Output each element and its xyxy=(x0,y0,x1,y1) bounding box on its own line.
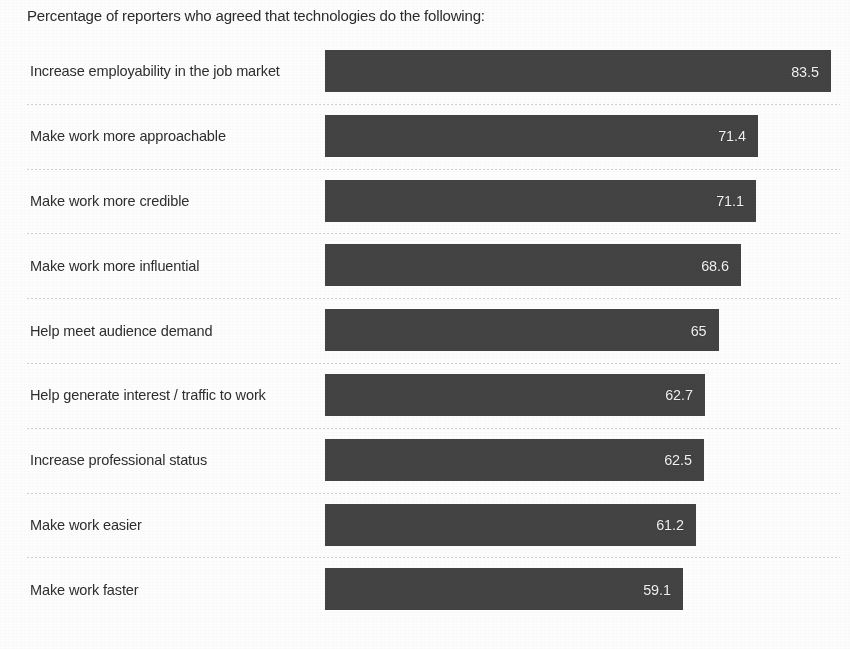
category-label: Increase employability in the job market xyxy=(30,39,311,104)
bar: 71.1 xyxy=(325,180,756,222)
bar-value-label: 83.5 xyxy=(791,63,819,80)
bar-chart-plot-area: Increase employability in the job market… xyxy=(0,39,850,629)
bar-track: 61.2 xyxy=(325,504,850,546)
bar-row: Increase employability in the job market… xyxy=(0,39,850,104)
bar-value-label: 71.1 xyxy=(716,192,744,209)
category-label: Help meet audience demand xyxy=(30,298,311,363)
bar: 71.4 xyxy=(325,115,758,157)
bar-value-label: 61.2 xyxy=(656,516,684,533)
bar-row: Make work more credible71.1 xyxy=(0,169,850,234)
bar: 59.1 xyxy=(325,568,683,610)
bar-value-label: 62.7 xyxy=(665,386,693,403)
bar-value-label: 68.6 xyxy=(701,257,729,274)
chart-page: Percentage of reporters who agreed that … xyxy=(0,0,850,649)
bar-row: Make work more influential68.6 xyxy=(0,233,850,298)
bar-value-label: 71.4 xyxy=(718,127,746,144)
bar: 68.6 xyxy=(325,244,741,286)
bar: 65 xyxy=(325,309,719,351)
bar-track: 83.5 xyxy=(325,50,850,92)
bar-row: Help generate interest / traffic to work… xyxy=(0,363,850,428)
bar-track: 62.5 xyxy=(325,439,850,481)
bar-track: 71.1 xyxy=(325,180,850,222)
bar-track: 71.4 xyxy=(325,115,850,157)
bar-track: 65 xyxy=(325,309,850,351)
bar-row: Make work more approachable71.4 xyxy=(0,104,850,169)
category-label: Increase professional status xyxy=(30,428,311,493)
category-label: Make work more credible xyxy=(30,169,311,234)
bar-row: Make work easier61.2 xyxy=(0,493,850,558)
bar: 62.7 xyxy=(325,374,705,416)
bar-track: 59.1 xyxy=(325,568,850,610)
bar-row: Make work faster59.1 xyxy=(0,557,850,622)
bar-value-label: 65 xyxy=(691,322,707,339)
bar-row: Help meet audience demand65 xyxy=(0,298,850,363)
bar-track: 68.6 xyxy=(325,244,850,286)
category-label: Make work easier xyxy=(30,493,311,558)
category-label: Help generate interest / traffic to work xyxy=(30,363,311,428)
bar-value-label: 62.5 xyxy=(664,451,692,468)
bar-value-label: 59.1 xyxy=(643,581,671,598)
bar: 83.5 xyxy=(325,50,831,92)
chart-title: Percentage of reporters who agreed that … xyxy=(27,6,784,26)
category-label: Make work more influential xyxy=(30,233,311,298)
category-label: Make work more approachable xyxy=(30,104,311,169)
bar: 61.2 xyxy=(325,504,696,546)
category-label: Make work faster xyxy=(30,557,311,622)
bar-row: Increase professional status62.5 xyxy=(0,428,850,493)
bar: 62.5 xyxy=(325,439,704,481)
bar-track: 62.7 xyxy=(325,374,850,416)
